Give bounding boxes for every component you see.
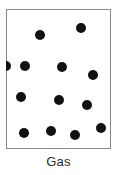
- figure-caption: Gas: [0, 153, 117, 170]
- particle-layer: [6, 9, 111, 149]
- gas-particle-diagram: Gas: [0, 0, 117, 175]
- gas-particle: [20, 61, 30, 71]
- gas-particle: [96, 123, 106, 133]
- gas-particle: [88, 70, 98, 80]
- gas-particle: [54, 95, 64, 105]
- gas-particle: [70, 130, 80, 140]
- gas-particle: [16, 92, 26, 102]
- gas-particle: [46, 126, 56, 136]
- gas-particle: [6, 61, 11, 71]
- gas-particle: [35, 30, 45, 40]
- gas-particle: [57, 62, 67, 72]
- gas-particle: [19, 128, 29, 138]
- gas-particle: [76, 23, 86, 33]
- gas-particle: [82, 100, 92, 110]
